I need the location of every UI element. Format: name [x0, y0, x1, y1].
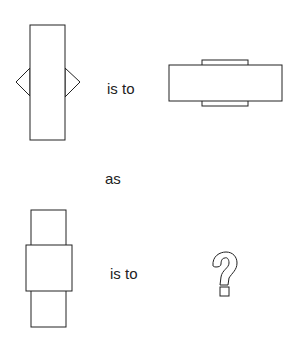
figure-c — [26, 210, 72, 327]
center-square — [26, 245, 72, 291]
relation-label-2: is to — [110, 266, 138, 281]
wide-rectangle — [169, 65, 282, 101]
question-mark-icon — [213, 252, 237, 296]
right-triangle — [65, 68, 80, 97]
tall-rectangle — [30, 25, 65, 140]
left-triangle — [16, 68, 30, 96]
figure-b — [169, 60, 282, 106]
analogy-diagram — [0, 0, 297, 344]
connector-label: as — [105, 171, 121, 186]
figure-a — [16, 25, 80, 140]
relation-label-1: is to — [107, 81, 135, 96]
